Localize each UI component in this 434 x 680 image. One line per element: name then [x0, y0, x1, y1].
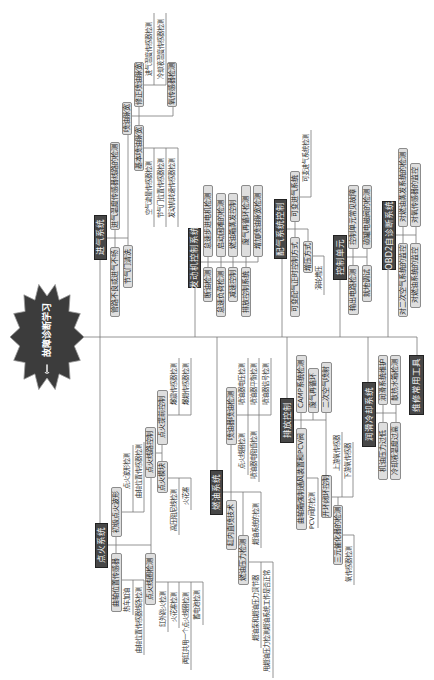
subtopic-variable-intake: 可变进气系统 — [290, 171, 300, 222]
subtopic-ignition-advance-control: 点火提前控制 — [157, 390, 168, 445]
subtopic-evap-control: 燃油箱蒸发控制 — [228, 193, 238, 257]
leaf-waveform-check: 点火波形检测 — [123, 445, 132, 497]
subtopic-decel-control: 减速控制 — [228, 267, 238, 302]
leaf-airflow-sensor-check: 空气流量传感器检测 — [145, 150, 154, 227]
subtopic-pulse-width: 喷油脉宽 — [122, 102, 132, 135]
leaf-spark-plug-check: 火花塞检测 — [170, 586, 178, 628]
subtopic-hard-start-check: 启动困难的检测 — [216, 193, 226, 257]
subtopic-o2-sens-monitor: 对氧传感器的监控 — [410, 163, 421, 227]
subtopic-catalyst-check: 三元催化器的检测 — [333, 505, 343, 565]
subtopic-direct-injection: 缸内直喷技术 — [226, 500, 237, 550]
subtopic-variable-timing: 可变配气正时控制方式 — [290, 237, 300, 317]
subtopic-idle-load-check: 怠速负荷检测 — [216, 267, 226, 317]
subtopic-lube-maintenance: 润滑系统维护 — [378, 355, 388, 405]
subtopic-ecu-common-faults: 控制单元常见故障 — [348, 185, 359, 249]
leaf-upstream-o2-sensor: 上游氧传感器 — [333, 432, 341, 475]
subtopic-fuel-pressure-check: 燃油压力检测 — [238, 535, 249, 585]
subtopic-increase-pulse-check: 增加喷油脉宽检测 — [253, 185, 263, 257]
subtopic-injector-check: 喷油器喷油检测 — [226, 387, 237, 445]
subtopic-open-closed-loop: 开环闭环控制 — [321, 475, 332, 518]
subtopic-corrected-pulse-width: 修正喷油脉宽 — [134, 62, 144, 107]
leaf-crank-sensor-line-check: 曲轴位置传感器线路检测 — [135, 586, 144, 655]
topic-fuel-system: 燃油系统 — [210, 470, 223, 515]
subtopic-ignition-module: 点火模块 — [157, 461, 168, 493]
leaf-turbocharging: 涡轮增压 — [315, 263, 323, 293]
leaf-fuel-pressure-system-test: 用燃油压力检测燃油系统工作是否正常 — [263, 564, 272, 678]
leaf-detonation-sensor-check: 爆燃传感器检测 — [182, 358, 190, 410]
topic-valve-timing-control: 配气系统控制 — [274, 199, 287, 259]
leaf-crank-sensor-check: 曲轴位置传感器检测 — [135, 442, 144, 500]
leaf-coolant-temp-sensor-check: 冷却液温度传感器检测 — [157, 13, 166, 85]
subtopic-radiator-check: 散热水箱检测 — [390, 355, 401, 405]
subtopic-fuel-cut-check: 断油检测 — [203, 267, 213, 302]
subtopic-coolant-overheat: 冷却液温度过高 — [390, 422, 401, 480]
subtopic-ignition-circuit-control: 点火线路控制 — [145, 427, 156, 478]
subtopic-onsite-debug: 就地调试 — [362, 265, 372, 302]
leaf-warm-engine-refuel: 热车加油 — [123, 586, 132, 615]
leaf-pcv-valve-check: PCV阀的检测 — [308, 493, 317, 528]
subtopic-fuel-system-monitor: 对燃油系统的监控 — [410, 243, 421, 308]
subtopic-intake-temp-sensor-line-check: 进气温度传感器线路的检测 — [110, 142, 120, 230]
subtopic-ignition-coil-check: 点火线圈检测 — [145, 553, 156, 605]
subtopic-evap-system-check: 对燃油蒸发系统的检测 — [398, 148, 408, 227]
subtopic-egr: 废气再循环 — [308, 368, 319, 413]
subtopic-low-oil-pressure: 机油压力过低 — [378, 422, 388, 480]
subtopic-throttle-cleaning: 节气门清洗 — [123, 245, 133, 288]
subtopic-canister-valve-check: 碳罐电磁阀的检测 — [362, 185, 372, 249]
leaf-fuel-system-check: 燃油系统的检测 — [252, 500, 260, 548]
wrench-icon — [41, 364, 53, 376]
subtopic-pcv-system: 曲轴箱强制通风装置和PCV阀 — [296, 428, 307, 530]
subtopic-output-circuit-check: 输出电路检测 — [348, 265, 359, 315]
topic-engine-control-system: 发动机控制系统 — [188, 228, 201, 288]
subtopic-primary-waveform: 初级点火波形 — [111, 487, 122, 537]
leaf-variable-intake-check: 可变进气系统检测 — [302, 130, 310, 187]
leaf-injector-signal-check: 喷油器信号检测 — [262, 358, 271, 410]
leaf-engine-speed-sensor-check: 发动机转速传感器检测 — [168, 150, 177, 227]
subtopic-secondary-air-injection: 二次空气喷射 — [321, 362, 332, 413]
leaf-injector-voltage-check: 喷油器电压检测 — [238, 358, 247, 410]
topic-emission-control: 排放控制 — [280, 398, 294, 443]
leaf-injector-resistance-check: 喷油器电阻值检测 — [250, 428, 259, 482]
leaf-knock-sensor-check: 爆震传感器检测 — [170, 358, 178, 410]
topic-obd2-self-diagnosis: OBD2自诊断系统 — [382, 201, 396, 270]
central-starburst — [0, 0, 434, 680]
subtopic-boost-mode: 增压方式 — [303, 241, 313, 273]
topic-intake-system: 进气系统 — [94, 215, 107, 260]
subtopic-idle-stepper-check: 怠速步进电机检测 — [203, 185, 213, 257]
leaf-spark-plug: 火花塞 — [182, 485, 190, 508]
topic-common-repair-tools: 维修常用工具 — [409, 355, 424, 415]
subtopic-basic-pulse-width: 基本喷油脉宽 — [134, 125, 144, 171]
leaf-fuel-pump-regulator: 燃油泵和燃油压力调节器 — [252, 568, 260, 648]
topic-ignition-system: 点火系统 — [95, 523, 108, 568]
leaf-external-spark-check: 缸外跳火检测 — [159, 586, 167, 632]
topic-control-unit: 控制单元 — [333, 235, 347, 280]
central-topic: 故障诊断学习 — [40, 296, 54, 364]
leaf-intake-temp-sensor-check: 进气温度传感器检测 — [145, 13, 154, 85]
subtopic-pipe-issue: 管路不良或进气不畅 — [110, 247, 120, 317]
mind-map-canvas: 故障诊断学习 进气系统 进气温度传感器线路的检测 管路不良或进气不畅 节气门清洗… — [0, 0, 434, 680]
subtopic-secondary-air-monitor: 对二次空气系统的监控 — [398, 243, 408, 317]
leaf-downstream-o2-sensor: 下游氧传感器 — [344, 440, 352, 483]
leaf-injector-balance-check: 喷油器平衡检测 — [250, 358, 259, 410]
subtopic-o2-sensor-check: 氧传感器检测 — [167, 62, 177, 107]
subtopic-camp-system-check: CAMP系统检测 — [296, 355, 307, 413]
leaf-throttle-position-sensor-check: 节气门位置传感器检测 — [157, 150, 166, 227]
subtopic-crank-position-sensor: 曲轴位置传感器 — [111, 553, 122, 612]
subtopic-emission-control-system: 排放控制系统 — [241, 267, 251, 317]
topic-lube-cooling-system: 润滑冷却系统 — [362, 382, 376, 447]
leaf-shared-coil-check: 两缸共用一个点火线圈检测 — [182, 586, 190, 670]
leaf-o2-sensor-check: 氧传感器检测 — [345, 543, 353, 585]
leaf-coil-check: 点火线圈检测 — [238, 428, 247, 475]
leaf-ht-damping-wire-check: 高压阻尼线检测 — [170, 485, 178, 535]
leaf-battery-check: 蓄电池检测 — [193, 586, 202, 625]
subtopic-egr-check: 废气再循环检测 — [241, 185, 251, 257]
